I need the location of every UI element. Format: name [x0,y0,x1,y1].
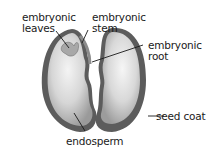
label-embryonic-leaves: embryonic leaves [22,12,76,34]
label-embryonic-stem: embryonic stem [92,12,146,34]
right-cotyledon [96,28,146,132]
label-endosperm: endosperm [66,136,123,147]
label-seed-coat: seed coat [156,111,205,122]
label-embryonic-root: embryonic root [148,40,202,62]
